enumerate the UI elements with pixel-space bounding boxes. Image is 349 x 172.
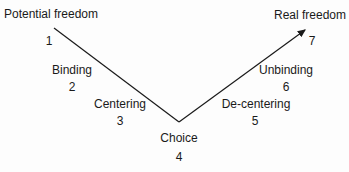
label-choice: Choice [160, 131, 197, 145]
v-path-lines [0, 0, 349, 172]
number-1: 1 [46, 34, 53, 48]
diagram-canvas: Potential freedom 1 Binding 2 Centering … [0, 0, 349, 172]
label-binding: Binding [52, 63, 92, 77]
number-7: 7 [309, 34, 316, 48]
label-centering: Centering [94, 97, 146, 111]
number-6: 6 [283, 80, 290, 94]
label-unbinding: Unbinding [259, 63, 313, 77]
label-de-centering: De-centering [222, 97, 291, 111]
number-5: 5 [252, 114, 259, 128]
number-4: 4 [176, 150, 183, 164]
number-3: 3 [117, 114, 124, 128]
label-potential-freedom: Potential freedom [4, 7, 98, 21]
number-2: 2 [69, 80, 76, 94]
label-real-freedom: Real freedom [274, 8, 346, 22]
